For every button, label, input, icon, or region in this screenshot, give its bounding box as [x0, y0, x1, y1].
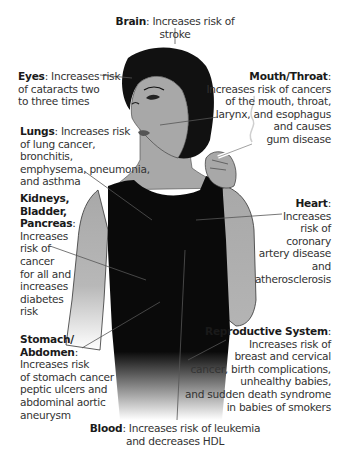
label-blood: Blood: Increases risk of leukemia and de… [85, 422, 265, 447]
organ-lungs: Lungs [20, 125, 54, 137]
label-mouth-throat: Mouth/Throat: Increases risk of cancers … [200, 70, 331, 146]
organ-heart: Heart [295, 197, 327, 209]
organ-blood: Blood [90, 422, 123, 434]
label-kidneys-bladder-pancreas: Kidneys, Bladder, Pancreas: Increases ri… [20, 192, 90, 318]
desc-brain: Increases risk of stroke [152, 15, 234, 40]
label-stomach-abdomen: Stomach/ Abdomen: Increases risk of stom… [20, 333, 120, 421]
organ-mouth-throat: Mouth/Throat [249, 70, 327, 82]
label-brain: Brain: Increases risk of stroke [100, 15, 250, 40]
label-eyes: Eyes: Increases risk of cataracts two to… [18, 70, 128, 108]
organ-brain: Brain [116, 15, 146, 27]
label-heart: Heart: Increases risk of coronary artery… [250, 197, 331, 285]
label-reproductive-system: Reproductive System: Increases risk of b… [180, 325, 331, 413]
label-lungs: Lungs: Increases risk of lung cancer, br… [20, 125, 150, 188]
organ-reproductive: Reproductive System [205, 325, 328, 337]
organ-eyes: Eyes [18, 70, 45, 82]
